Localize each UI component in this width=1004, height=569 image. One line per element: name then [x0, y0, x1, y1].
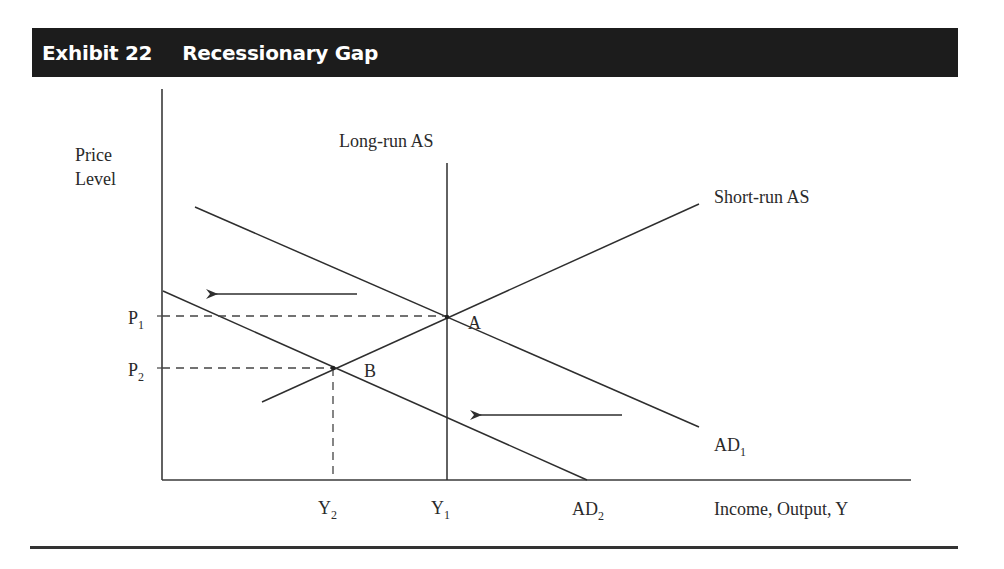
p2-label: P2: [128, 360, 144, 384]
y2-label: Y2: [318, 498, 337, 522]
point-a-marker: [445, 315, 449, 319]
ad2-line: [163, 291, 587, 480]
point-b-label: B: [364, 361, 376, 381]
bottom-rule: [30, 546, 958, 549]
lras-label: Long-run AS: [339, 131, 434, 151]
sras-line: [262, 204, 699, 402]
ad2-label: AD2: [572, 499, 604, 523]
sras-label: Short-run AS: [714, 187, 810, 207]
y-axis-label-line2: Level: [75, 169, 116, 189]
p1-label: P1: [128, 308, 144, 332]
x-axis-label: Income, Output, Y: [714, 499, 848, 519]
point-a-label: A: [468, 313, 481, 333]
point-b-marker: [331, 366, 335, 370]
y1-label: Y1: [431, 498, 450, 522]
recessionary-gap-diagram: Price Level Income, Output, Y Long-run A…: [0, 0, 1004, 569]
ad1-label: AD1: [714, 435, 746, 459]
y-axis-label-line1: Price: [75, 145, 112, 165]
